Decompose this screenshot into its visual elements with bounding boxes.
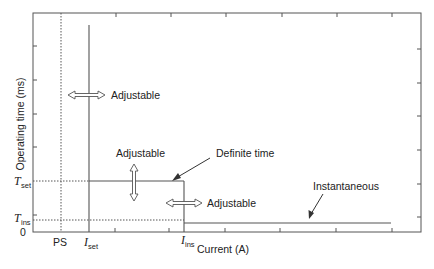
- adjustable-tset-label: Adjustable: [116, 147, 165, 159]
- right-axis-ticks: [417, 49, 421, 217]
- left-axis-ticks: [33, 46, 37, 215]
- y-axis-label: Operating time (ms): [14, 78, 26, 171]
- definite-time-label: Definite time: [216, 147, 275, 159]
- svg-text:set: set: [88, 242, 99, 251]
- definite-time-pointer-icon: [172, 158, 210, 181]
- top-axis-ticks: [116, 13, 392, 17]
- tset-adjust-arrow-icon: [130, 164, 138, 201]
- ps-marker: PS: [53, 236, 67, 248]
- instantaneous-label: Instantaneous: [313, 180, 379, 192]
- bottom-axis-ticks: [115, 228, 392, 232]
- iins-marker: I ins: [180, 233, 195, 249]
- iset-marker: I set: [83, 235, 99, 251]
- adjustable-iset-label: Adjustable: [111, 89, 160, 101]
- svg-text:set: set: [21, 181, 32, 190]
- svg-text:ins: ins: [185, 240, 195, 249]
- y-origin-label: 0: [20, 226, 26, 238]
- iset-adjust-arrow-icon: [68, 91, 105, 99]
- tins-marker: T ins: [14, 211, 31, 227]
- tset-marker: T set: [14, 174, 32, 190]
- x-axis-label: Current (A): [197, 243, 249, 255]
- time-current-diagram: Adjustable Adjustable Adjustable Definit…: [0, 0, 434, 269]
- adjustable-iins-label: Adjustable: [207, 197, 256, 209]
- instantaneous-pointer-icon: [309, 194, 324, 219]
